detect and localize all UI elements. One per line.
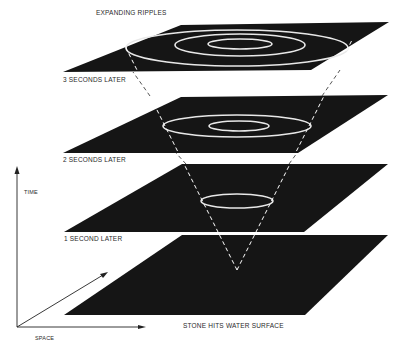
plane-1-second: [64, 164, 388, 232]
plane-label-2: 2 SECONDS LATER: [63, 156, 126, 163]
spacetime-ripple-diagram: EXPANDING RIPPLES 3 SECONDS LATER 2 SECO…: [0, 0, 402, 352]
plane-label-0: STONE HITS WATER SURFACE: [183, 322, 284, 329]
time-axis-label: TIME: [24, 189, 38, 195]
space-x-arrow-icon: [138, 325, 146, 329]
plane-2-seconds: [63, 95, 388, 153]
plane-label-3: 3 SECONDS LATER: [63, 76, 126, 83]
space-y-arrow-icon: [100, 272, 108, 278]
space-axis-label: SPACE: [35, 335, 54, 341]
plane-3-seconds: [63, 22, 389, 72]
plane-label-1: 1 SECOND LATER: [64, 235, 122, 242]
time-arrow-icon: [15, 166, 20, 174]
plane-stone-hits: [64, 235, 388, 315]
diagram-title: EXPANDING RIPPLES: [96, 9, 167, 16]
